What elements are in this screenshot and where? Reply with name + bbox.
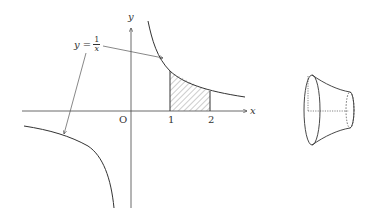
shaded-region xyxy=(170,71,210,111)
curve-positive-branch xyxy=(148,21,245,97)
graph-svg xyxy=(0,0,370,224)
tick-label-2: 2 xyxy=(208,115,214,125)
function-label-lhs: y = xyxy=(74,39,91,50)
fraction-denominator: x xyxy=(95,45,100,53)
fraction: 1 x xyxy=(93,36,100,53)
y-axis-label: y xyxy=(128,12,134,22)
origin-label: O xyxy=(119,115,127,125)
curve-negative-branch xyxy=(24,126,114,208)
tick-label-1: 1 xyxy=(168,115,174,125)
figure: y x O 1 2 y = 1 x xyxy=(0,0,370,224)
x-axis-label: x xyxy=(250,106,256,116)
label-pointer-lower xyxy=(64,53,86,134)
solid-of-revolution xyxy=(304,75,354,145)
label-pointer-upper xyxy=(103,46,163,58)
function-label: y = 1 x xyxy=(74,36,100,53)
